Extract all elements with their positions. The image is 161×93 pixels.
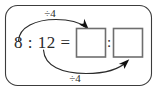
ratio-diagram-figure: 8 : 12 = : ÷4 ÷4 [0,0,161,93]
figure-canvas: 8 : 12 = : ÷4 ÷4 [0,0,161,93]
divide-label-top: ÷4 [44,7,56,19]
answer-box-second[interactable] [114,29,143,58]
answer-box-first[interactable] [77,29,106,58]
answer-ratio-colon: : [107,34,111,50]
ratio-equation-text: 8 : 12 = [14,33,71,52]
divide-label-bottom: ÷4 [69,72,81,84]
